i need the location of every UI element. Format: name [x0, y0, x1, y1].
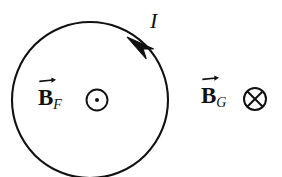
physics-figure: I B F B	[0, 0, 282, 177]
figure-canvas	[0, 0, 282, 177]
field-into-page-icon	[244, 88, 266, 110]
field-out-of-page-icon	[87, 90, 108, 111]
